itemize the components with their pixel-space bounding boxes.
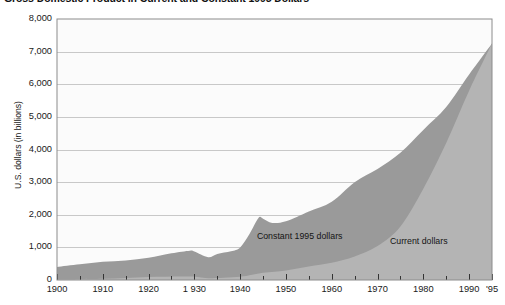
x-axis-tick-label: 1910 bbox=[92, 284, 113, 294]
x-axis-tick-label: 1950 bbox=[276, 284, 297, 294]
x-axis-tick-label: 1 930 bbox=[183, 284, 206, 294]
x-axis-tick-label: 1920 bbox=[138, 284, 159, 294]
gdp-area-chart-figure: Gross Domestic Product in Current and Co… bbox=[0, 0, 505, 305]
x-axis-tick-label: 1980 bbox=[413, 284, 434, 294]
x-axis-tick-label: 1900 bbox=[47, 284, 68, 294]
x-axis-tick-label: '95 bbox=[486, 284, 498, 294]
series-label: Current dollars bbox=[390, 236, 448, 246]
x-axis-tick-labels: 1900191019201 93019401950196019701980199… bbox=[0, 284, 505, 300]
x-axis-tick-label: 1970 bbox=[367, 284, 388, 294]
plot-area bbox=[0, 0, 505, 305]
x-axis-tick-label: 1960 bbox=[321, 284, 342, 294]
series-label: Constant 1995 dollars bbox=[257, 231, 343, 241]
x-axis-tick-label: 1940 bbox=[230, 284, 251, 294]
x-axis-tick-label: 1990 bbox=[459, 284, 480, 294]
